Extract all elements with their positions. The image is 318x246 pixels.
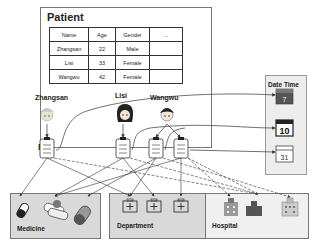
calendar-icon: 7 <box>276 89 293 104</box>
svg-text:31: 31 <box>281 154 289 161</box>
svg-text:7: 7 <box>283 96 287 103</box>
bill-icon <box>174 137 188 158</box>
bill-icon <box>40 137 54 158</box>
first-aid-kit-icon <box>123 199 137 212</box>
first-aid-kit-icon <box>147 199 161 212</box>
avatar-lisi-icon <box>117 104 133 122</box>
avatar-wangwu-icon <box>160 108 174 121</box>
hospital-cross-building-icon <box>246 201 262 216</box>
bill-icon <box>149 137 163 158</box>
diagram-graphics: 7 10 31 <box>0 0 318 246</box>
capsule-icon <box>72 204 92 227</box>
calendar-icon: 31 <box>276 146 293 162</box>
hospital-block-icon <box>282 198 298 216</box>
calendar-icon: 10 <box>276 120 293 136</box>
avatar-zhangsan-icon <box>41 109 53 122</box>
bill-icon <box>116 137 130 158</box>
svg-text:10: 10 <box>279 126 289 136</box>
first-aid-kit-icon <box>174 199 188 212</box>
pill-bottle-icon <box>16 202 30 219</box>
hospital-building-icon <box>224 198 238 216</box>
capsules-icon <box>43 200 68 220</box>
